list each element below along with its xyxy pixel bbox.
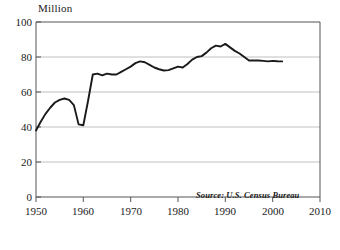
xtick-label-2010: 2010	[298, 206, 340, 217]
chart-figure: Million	[0, 0, 340, 250]
ytick-label-60: 60	[2, 87, 32, 98]
xtick-label-1950: 1950	[14, 206, 58, 217]
y-tick-marks	[36, 22, 41, 197]
xtick-label-2000: 2000	[251, 206, 295, 217]
xtick-label-1970: 1970	[109, 206, 153, 217]
gridlines	[36, 57, 320, 162]
ytick-label-0: 0	[2, 192, 32, 203]
plot-frame	[36, 22, 320, 197]
ytick-label-20: 20	[2, 157, 32, 168]
source-note: Source: U.S. Census Bureau	[196, 190, 299, 200]
ytick-label-100: 100	[2, 17, 32, 28]
xtick-label-1990: 1990	[203, 206, 247, 217]
xtick-label-1960: 1960	[61, 206, 105, 217]
ytick-label-40: 40	[2, 122, 32, 133]
xtick-label-1980: 1980	[156, 206, 200, 217]
ytick-label-80: 80	[2, 52, 32, 63]
